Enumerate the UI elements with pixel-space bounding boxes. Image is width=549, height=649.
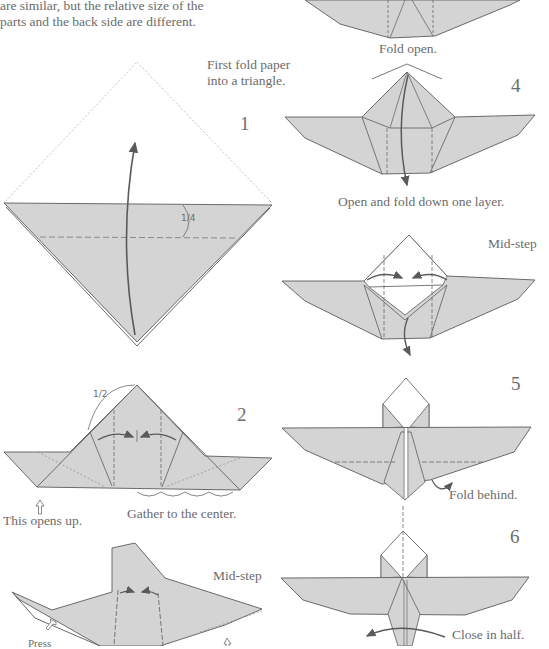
step4-number: 4 (511, 75, 521, 97)
step1-diagram (4, 62, 272, 346)
step1-caption-line1: First fold paper (207, 57, 290, 73)
step3-diagram (305, 0, 520, 38)
midstep-right-caption: Mid-step (488, 236, 537, 252)
step2-caption-right: Gather to the center. (127, 506, 236, 522)
step1-number: 1 (240, 113, 250, 135)
midstep-left-caption: Mid-step (213, 568, 262, 584)
step1-measure: 1/4 (181, 213, 195, 223)
press-label: Press (28, 637, 51, 649)
step2-number: 2 (237, 404, 247, 426)
step6-diagram (281, 506, 529, 646)
step4-diagram (285, 64, 535, 185)
step6-caption: Close in half. (452, 627, 524, 643)
step6-number: 6 (510, 526, 520, 548)
step5-caption: Fold behind. (449, 487, 517, 503)
step2-caption-left: This opens up. (3, 513, 82, 529)
step2-diagram (4, 385, 272, 514)
step2-measure: 1/2 (93, 389, 107, 399)
step1-caption-line2: into a triangle. (207, 73, 290, 89)
midstep-left-diagram (12, 543, 262, 646)
step5-diagram (282, 378, 531, 500)
midstep-right-diagram (282, 235, 535, 355)
step5-number: 5 (511, 373, 521, 395)
step1-caption: First fold paper into a triangle. (207, 57, 290, 89)
step4-caption: Open and fold down one layer. (338, 194, 504, 210)
step3-caption: Fold open. (379, 41, 437, 57)
